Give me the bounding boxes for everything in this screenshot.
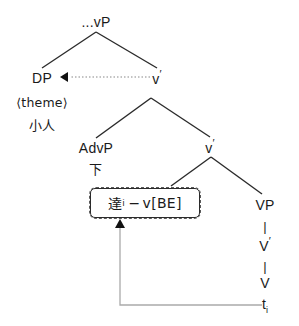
node-vp-label: VP bbox=[255, 197, 274, 213]
node-trace-subscript: i bbox=[266, 305, 268, 315]
node-v-head: V bbox=[260, 276, 270, 291]
node-vbar-verbal: V′ bbox=[259, 236, 271, 253]
spine-connector-vbar-to-v-glyph: | bbox=[263, 259, 266, 274]
theme-movement-arrowhead bbox=[60, 72, 68, 82]
node-dp-label: DP bbox=[32, 70, 52, 86]
node-advp-lexical-item: 下 bbox=[89, 163, 102, 177]
syntax-tree-diagram: ...vP DP ⟨theme⟩ 小人 v′ AdvP 下 v′ 達i−v[BE… bbox=[0, 0, 299, 326]
node-dp-theme-role-label: ⟨theme⟩ bbox=[16, 95, 68, 110]
spine-connector-vbar-to-v: | bbox=[263, 260, 266, 273]
node-vbar-verbal-prime: ′ bbox=[269, 235, 271, 247]
boxed-light-verb-feature: v[BE] bbox=[143, 195, 182, 211]
node-vbar-verbal-label: V bbox=[259, 238, 269, 254]
node-dp-lexical-item: 小人 bbox=[29, 119, 55, 133]
node-v-head-label: V bbox=[260, 275, 270, 291]
boxed-light-verb-node: 達i−v[BE] bbox=[89, 187, 201, 219]
node-vbar-upper-prime: ′ bbox=[160, 68, 162, 80]
branch-root-to-dp bbox=[42, 32, 96, 68]
branch-root-to-vbar1 bbox=[96, 32, 157, 68]
node-vp: VP bbox=[255, 198, 274, 213]
node-dp-lexical-item-label: 小人 bbox=[29, 118, 55, 133]
node-advp: AdvP bbox=[79, 141, 113, 156]
node-advp-lexical-item-label: 下 bbox=[89, 162, 102, 177]
tree-branch-lines bbox=[0, 0, 299, 326]
boxed-verb-separator: − bbox=[125, 195, 143, 211]
branch-vbar2-to-vp bbox=[211, 157, 262, 194]
node-advp-label: AdvP bbox=[79, 140, 113, 156]
branch-vbar1-to-vbar2 bbox=[151, 98, 210, 137]
boxed-light-verb-node-inner: 達i−v[BE] bbox=[90, 188, 200, 218]
node-trace: ti bbox=[262, 297, 268, 315]
branch-vbar1-to-advp bbox=[96, 98, 151, 138]
branch-vbar2-to-boxed-node bbox=[171, 157, 211, 186]
node-vbar-lower: v′ bbox=[205, 138, 214, 155]
node-dp: DP bbox=[32, 71, 52, 86]
spine-connector-vp-to-vbar-glyph: | bbox=[263, 219, 266, 234]
node-root-vp: ...vP bbox=[81, 15, 110, 30]
boxed-verb-word: 達 bbox=[108, 193, 122, 213]
head-movement-arrowhead bbox=[115, 219, 125, 228]
spine-connector-vp-to-vbar: | bbox=[263, 220, 266, 233]
node-dp-theme-role: ⟨theme⟩ bbox=[16, 96, 68, 109]
node-vbar-lower-prime: ′ bbox=[213, 137, 215, 149]
node-vbar-upper: v′ bbox=[152, 69, 161, 86]
node-root-vp-label: ...vP bbox=[81, 14, 110, 30]
head-movement-arrow-line bbox=[120, 226, 262, 305]
